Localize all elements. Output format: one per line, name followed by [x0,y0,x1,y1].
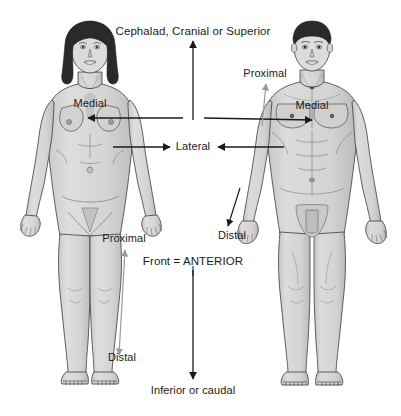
label-medial-male: Medial [295,100,328,111]
label-distal-male: Distal [218,230,246,241]
figure-canvas [0,0,401,416]
label-lateral: Lateral [176,141,210,152]
distal-arrow-male [228,188,240,226]
label-medial-female: Medial [73,98,106,109]
label-proximal-male: Proximal [243,68,287,79]
label-anterior: Front = ANTERIOR [143,256,243,268]
label-distal-female: Distal [108,352,136,363]
label-superior: Cephalad, Cranial or Superior [115,26,270,38]
label-inferior: Inferior or caudal [151,385,235,396]
label-proximal-female: Proximal [102,233,146,244]
anatomical-directional-terms-figure: Cephalad, Cranial or Superior Inferior o… [0,0,401,416]
female-figure [20,21,162,385]
